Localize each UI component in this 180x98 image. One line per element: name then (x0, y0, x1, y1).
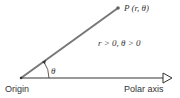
arrow-head-icon (163, 73, 172, 83)
polar-axis-label: Polar axis (124, 84, 164, 94)
angle-label: θ (51, 66, 55, 76)
point-p (116, 6, 120, 10)
condition-label: r > 0, θ > 0 (98, 38, 141, 48)
point-label: P (r, θ) (124, 3, 149, 13)
origin-dot (20, 77, 22, 79)
origin-label: Origin (5, 84, 29, 94)
angle-arc (44, 62, 49, 78)
